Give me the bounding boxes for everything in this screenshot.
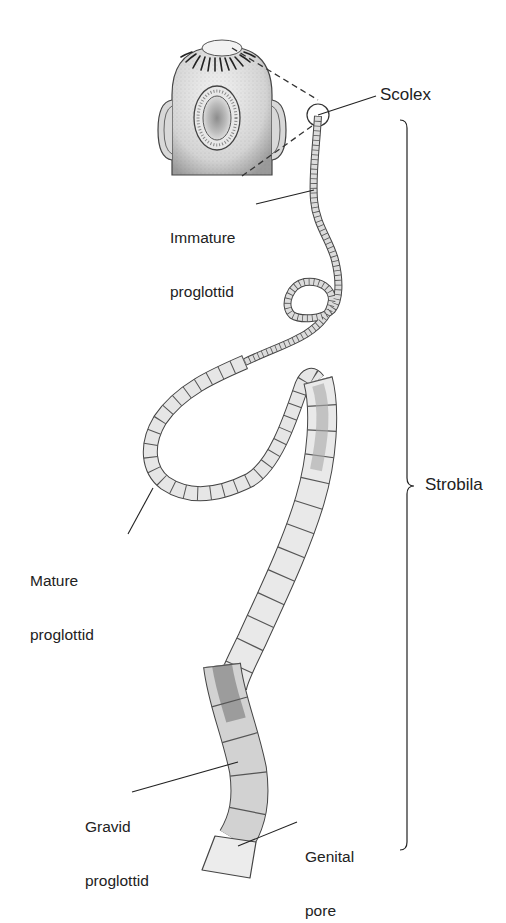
label-scolex: Scolex — [380, 86, 431, 104]
label-gravid-line2: proglottid — [85, 872, 149, 890]
strobila-bracket — [400, 120, 414, 850]
label-genital-pore: Genital pore — [305, 812, 354, 923]
label-gravid-proglottid: Gravid proglottid — [85, 782, 149, 923]
label-mature-proglottid: Mature proglottid — [30, 536, 94, 680]
label-strobila: Strobila — [425, 476, 483, 494]
label-gravid-line1: Gravid — [85, 818, 149, 836]
label-genital-line2: pore — [305, 902, 354, 920]
label-mature-line1: Mature — [30, 572, 94, 590]
label-genital-line1: Genital — [305, 848, 354, 866]
scolex-enlargement — [158, 40, 286, 175]
label-immature-line1: Immature — [170, 229, 235, 247]
label-immature-proglottid: Immature proglottid — [170, 193, 235, 337]
label-immature-line2: proglottid — [170, 283, 235, 301]
label-mature-line2: proglottid — [30, 626, 94, 644]
